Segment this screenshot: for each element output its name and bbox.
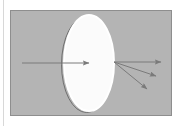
optics-figure <box>0 0 182 126</box>
ray-diagram-svg <box>0 0 182 126</box>
